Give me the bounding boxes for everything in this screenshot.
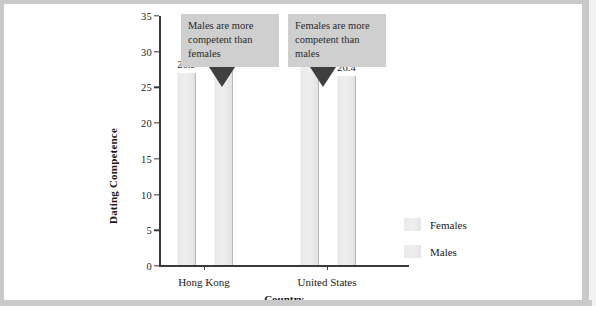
y-tickmark-5 — [154, 229, 159, 230]
legend-swatch-males — [404, 245, 421, 258]
y-tick-0: 0 — [126, 260, 152, 271]
y-tick-25: 25 — [126, 82, 152, 93]
callout-1-line-3: females — [188, 47, 272, 61]
legend-label-females: Females — [430, 219, 467, 231]
x-tick-label-hong-kong: Hong Kong — [178, 276, 230, 288]
callout-2-line-3: males — [295, 47, 379, 61]
y-tickmark-15 — [154, 158, 159, 159]
callout-males-more-competent: Males are more competent than females — [181, 14, 279, 67]
y-tickmark-35 — [154, 15, 159, 16]
y-tick-20: 20 — [126, 118, 152, 129]
y-tickmark-30 — [154, 51, 159, 52]
bar-chart: 35 30 25 20 15 10 5 0 — [4, 4, 582, 300]
chart-legend: Females Males — [404, 218, 467, 272]
y-tickmark-20 — [154, 122, 159, 123]
x-tickmark-united-states — [327, 265, 328, 270]
y-axis-line — [159, 16, 161, 266]
callout-2-line-1: Females are more — [295, 19, 379, 33]
y-tick-15: 15 — [126, 153, 152, 164]
y-tickmark-10 — [154, 194, 159, 195]
y-tick-30: 30 — [126, 46, 152, 57]
legend-swatch-females — [404, 218, 421, 231]
callout-2-line-2: competent than — [295, 33, 379, 47]
legend-item-males[interactable]: Males — [404, 245, 467, 258]
y-tick-35: 35 — [126, 11, 152, 22]
down-triangle-icon-hong-kong-males — [209, 67, 235, 87]
x-tick-label-united-states: United States — [298, 276, 357, 288]
y-tick-10: 10 — [126, 189, 152, 200]
figure-frame: 35 30 25 20 15 10 5 0 — [4, 4, 582, 300]
down-triangle-icon-united-states-females — [310, 67, 336, 87]
callout-1-line-2: competent than — [188, 33, 272, 47]
scanned-figure-page: 35 30 25 20 15 10 5 0 — [0, 0, 596, 332]
x-axis-line — [159, 265, 409, 267]
y-tickmark-25 — [154, 87, 159, 88]
bar-united-states-males[interactable]: 26.4 — [337, 76, 356, 265]
legend-label-males: Males — [430, 246, 457, 258]
x-tickmark-hong-kong — [204, 265, 205, 270]
caption-strip: Both groups perceive more dating compete… — [0, 306, 596, 332]
y-axis-title: Dating Competence — [107, 128, 119, 224]
callout-1-line-1: Males are more — [188, 19, 272, 33]
y-axis-title-wrapper: Dating Competence — [114, 94, 128, 234]
y-tickmark-0 — [154, 265, 159, 266]
bar-hong-kong-females[interactable]: 26.9 — [177, 73, 196, 265]
y-tick-5: 5 — [126, 225, 152, 236]
callout-females-more-competent: Females are more competent than males — [288, 14, 386, 67]
legend-item-females[interactable]: Females — [404, 218, 467, 231]
